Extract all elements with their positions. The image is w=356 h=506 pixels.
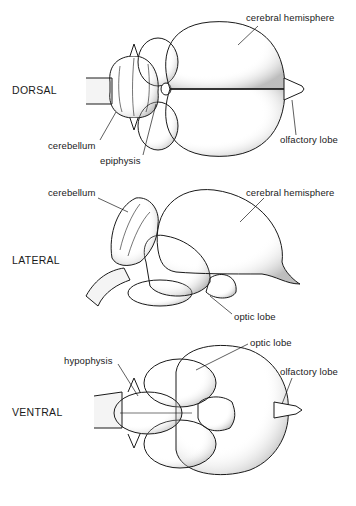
label-ventral-hypophysis: hypophysis [64, 355, 113, 366]
label-dorsal-cerebellum: cerebellum [48, 140, 95, 151]
label-lateral-optic-lobe: optic lobe [234, 311, 276, 322]
dorsal-brain-drawing [86, 22, 304, 157]
label-lateral-cerebellum: cerebellum [48, 187, 95, 198]
label-dorsal-cerebral-hemisphere: cerebral hemisphere [246, 12, 335, 23]
label-lateral-cerebral-hemisphere: cerebral hemisphere [246, 187, 335, 198]
view-title-lateral: LATERAL [12, 254, 60, 266]
label-dorsal-olfactory-lobe: olfactory lobe [280, 134, 338, 145]
brain-diagram [0, 0, 356, 506]
view-title-ventral: VENTRAL [12, 406, 63, 418]
label-dorsal-epiphysis: epiphysis [100, 155, 141, 166]
label-ventral-olfactory-lobe: olfactory lobe [280, 366, 338, 377]
view-title-dorsal: DORSAL [12, 84, 57, 96]
label-ventral-optic-lobe: optic lobe [250, 337, 292, 348]
ventral-brain-drawing [94, 345, 302, 474]
